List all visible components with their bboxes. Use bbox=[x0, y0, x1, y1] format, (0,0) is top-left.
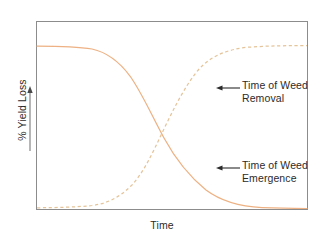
chart-canvas bbox=[0, 0, 324, 241]
annotation-emergence-line2: Emergence bbox=[242, 172, 308, 185]
annotation-emergence-line1: Time of Weed bbox=[242, 159, 308, 172]
annotation-removal-line1: Time of Weed bbox=[242, 79, 308, 92]
x-axis-title: Time bbox=[0, 219, 324, 231]
annotation-removal-line2: Removal bbox=[242, 92, 308, 105]
annotation-label-weed-emergence: Time of Weed Emergence bbox=[242, 159, 308, 184]
chart-figure: Time of Weed Removal Time of Weed Emerge… bbox=[0, 0, 324, 241]
y-axis-title: % Yield Loss bbox=[16, 50, 28, 170]
annotation-label-weed-removal: Time of Weed Removal bbox=[242, 79, 308, 104]
y-axis-up-arrow-icon bbox=[27, 86, 32, 151]
